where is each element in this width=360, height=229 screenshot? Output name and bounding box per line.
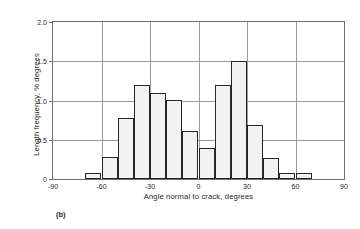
histogram-bar <box>247 125 263 179</box>
histogram-bar <box>199 148 215 179</box>
x-tick-label: -30 <box>145 183 155 190</box>
y-tick-mark <box>49 179 53 180</box>
x-tick-label: 90 <box>340 183 348 190</box>
x-tick-label: 30 <box>243 183 251 190</box>
plot-area: 00.51.01.52.0 -90-60-300306090 <box>52 21 345 180</box>
y-tick-label: 1.5 <box>37 58 47 65</box>
y-tick-label: 2.0 <box>37 19 47 26</box>
histogram-bar <box>263 158 279 179</box>
x-axis-title: Angle normal to crack, degrees <box>52 192 345 201</box>
x-tick-label: -90 <box>48 183 58 190</box>
y-tick-label: 0.5 <box>37 136 47 143</box>
x-tick-label: -60 <box>96 183 106 190</box>
y-tick-mark <box>49 22 53 23</box>
y-tick-label: 0 <box>43 176 47 183</box>
histogram-bars <box>53 22 344 179</box>
histogram-bar <box>166 100 182 179</box>
histogram-bar <box>150 93 166 179</box>
histogram-bar <box>182 131 198 179</box>
histogram-bar <box>279 173 295 179</box>
histogram-bar <box>215 85 231 179</box>
histogram-bar <box>296 173 312 179</box>
y-tick-mark <box>49 61 53 62</box>
x-tick-label: 60 <box>292 183 300 190</box>
y-tick-mark <box>49 101 53 102</box>
figure-b: Length frequency, % degrees 00.51.01.52.… <box>0 0 360 229</box>
histogram-bar <box>118 118 134 179</box>
x-tick-label: 0 <box>197 183 201 190</box>
y-tick-mark <box>49 140 53 141</box>
y-axis-title: Length frequency, % degrees <box>32 25 41 185</box>
figure-caption: (b) <box>56 210 65 219</box>
histogram-bar <box>85 173 101 179</box>
y-tick-label: 1.0 <box>37 97 47 104</box>
histogram-bar <box>134 85 150 179</box>
histogram-bar <box>102 157 118 179</box>
histogram-bar <box>231 61 247 179</box>
